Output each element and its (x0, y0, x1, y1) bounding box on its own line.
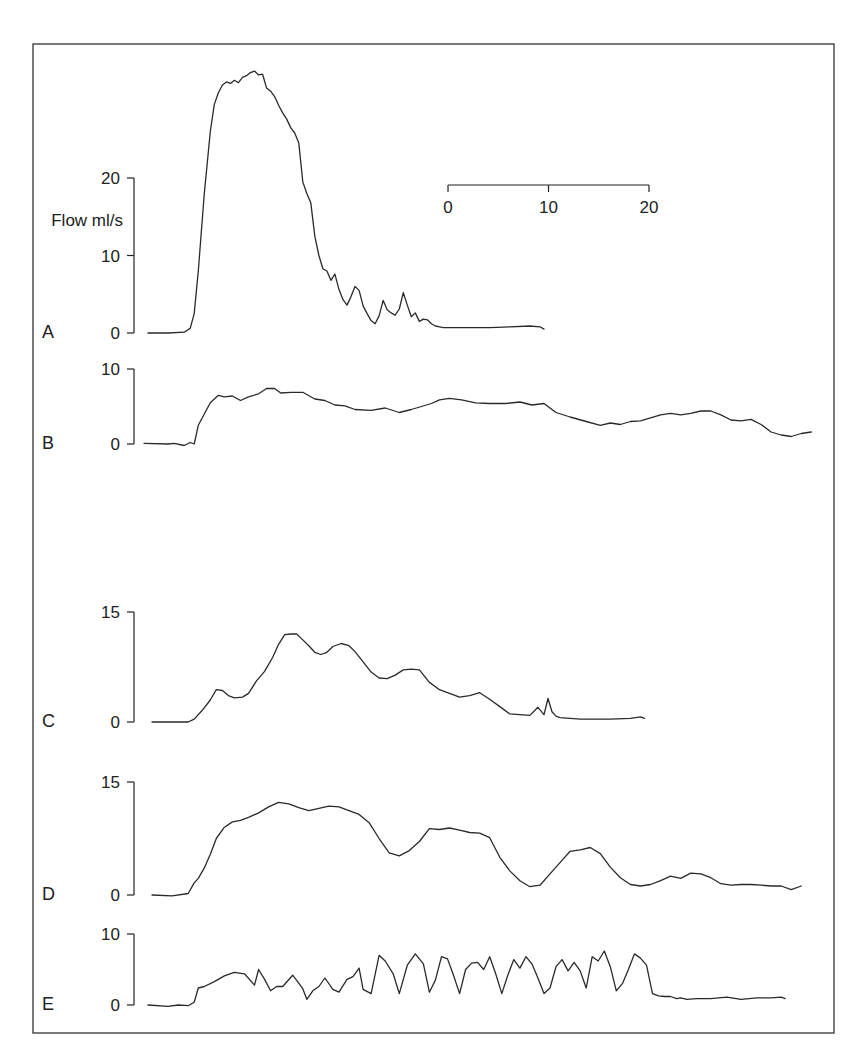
flow-trace-d (152, 802, 801, 896)
scale-bar-tick-label: 0 (443, 198, 452, 217)
panel-label: E (42, 994, 54, 1014)
y-tick-label: 10 (101, 360, 120, 379)
panel-e: 010E (42, 925, 785, 1015)
time-scale-bar: 01020 (443, 185, 658, 217)
y-tick-label: 0 (111, 713, 120, 732)
y-tick-label: 10 (101, 925, 120, 944)
y-tick-label: 20 (101, 169, 120, 188)
y-tick-label: 0 (111, 996, 120, 1015)
panel-label: B (42, 433, 54, 453)
panel-label: A (42, 322, 54, 342)
scale-bar-tick-label: 20 (640, 198, 659, 217)
flow-trace-e (148, 951, 785, 1006)
y-tick-label: 15 (101, 773, 120, 792)
panels: 01020AFlow ml/s010B015C015D010E (42, 71, 811, 1015)
figure-frame (33, 44, 834, 1033)
y-tick-label: 0 (111, 886, 120, 905)
flow-trace-b (144, 389, 811, 446)
panel-d: 015D (42, 773, 801, 905)
flow-trace-c (152, 634, 645, 722)
panel-label: D (42, 884, 55, 904)
y-axis-label: Flow ml/s (51, 211, 123, 230)
flow-trace-a (148, 71, 544, 333)
panel-label: C (42, 711, 55, 731)
y-tick-label: 0 (111, 324, 120, 343)
y-tick-label: 15 (101, 603, 120, 622)
panel-c: 015C (42, 603, 645, 732)
y-tick-label: 0 (111, 435, 120, 454)
panel-a: 01020AFlow ml/s (42, 71, 544, 343)
panel-b: 010B (42, 360, 811, 454)
uroflowmetry-figure: 01020 01020AFlow ml/s010B015C015D010E (0, 0, 863, 1061)
y-tick-label: 10 (101, 247, 120, 266)
scale-bar-tick-label: 10 (539, 198, 558, 217)
